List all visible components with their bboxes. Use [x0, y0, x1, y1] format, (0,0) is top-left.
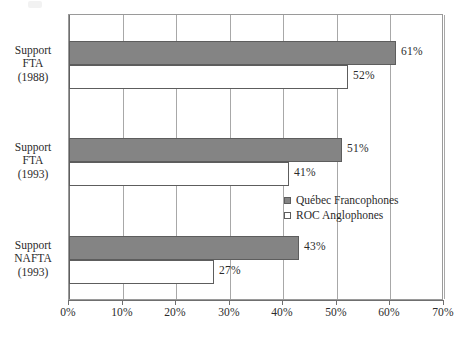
gridline-70: [444, 15, 445, 299]
category-label-line: (1988): [2, 71, 64, 85]
bar-0-0: [69, 41, 396, 65]
x-tick-label-20: 20%: [153, 307, 197, 319]
x-tick-label-60: 60%: [367, 307, 411, 319]
tick-mark-60: [389, 300, 390, 305]
category-label-line: FTA: [2, 154, 64, 168]
tick-mark-30: [229, 300, 230, 305]
hollow-white-square-icon: [284, 212, 291, 219]
bar-value-label-0-2: 43%: [304, 241, 326, 253]
category-label-line: FTA: [2, 57, 64, 71]
bar-1-0: [69, 65, 348, 89]
category-label-line: Support: [2, 44, 64, 58]
tick-mark-20: [175, 300, 176, 305]
tick-mark-70: [443, 300, 444, 305]
x-tick-label-10: 10%: [100, 307, 144, 319]
plot-area: [68, 14, 443, 300]
legend-item-1: ROC Anglophones: [284, 208, 399, 222]
category-label-2: SupportNAFTA(1993): [2, 239, 64, 280]
bar-value-label-1-0: 52%: [353, 70, 375, 82]
legend-item-0: Québec Francophones: [284, 193, 399, 207]
scan-artifact: [28, 1, 42, 8]
tick-mark-50: [336, 300, 337, 305]
bar-0-1: [69, 138, 342, 162]
bar-1-2: [69, 260, 214, 284]
bar-value-label-1-2: 27%: [219, 265, 241, 277]
tick-mark-10: [122, 300, 123, 305]
x-tick-label-0: 0%: [46, 307, 90, 319]
category-label-line: Support: [2, 239, 64, 253]
category-label-line: NAFTA: [2, 252, 64, 266]
legend-item-label: ROC Anglophones: [296, 208, 383, 222]
tick-mark-0: [68, 300, 69, 305]
bar-0-2: [69, 236, 299, 260]
x-tick-label-30: 30%: [207, 307, 251, 319]
bar-value-label-0-1: 51%: [347, 143, 369, 155]
tick-mark-40: [282, 300, 283, 305]
category-label-line: Support: [2, 141, 64, 155]
bar-1-1: [69, 162, 289, 186]
category-label-0: SupportFTA(1988): [2, 44, 64, 85]
x-tick-label-70: 70%: [421, 307, 465, 319]
category-label-1: SupportFTA(1993): [2, 141, 64, 182]
filled-gray-square-icon: [284, 197, 291, 204]
x-tick-label-40: 40%: [260, 307, 304, 319]
bar-chart: 61%52%51%41%43%27% SupportFTA(1988)Suppo…: [0, 0, 471, 347]
category-label-line: (1993): [2, 168, 64, 182]
category-label-line: (1993): [2, 266, 64, 280]
bar-value-label-1-1: 41%: [294, 167, 316, 179]
x-axis-line: [68, 300, 444, 301]
legend: Québec FrancophonesROC Anglophones: [284, 193, 399, 223]
legend-item-label: Québec Francophones: [296, 193, 399, 207]
x-tick-label-50: 50%: [314, 307, 358, 319]
bar-value-label-0-0: 61%: [401, 46, 423, 58]
